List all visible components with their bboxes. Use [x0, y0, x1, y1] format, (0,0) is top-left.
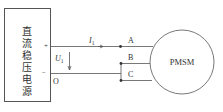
minus-terminal-label: −	[42, 69, 46, 77]
supply-char-4: 压	[22, 62, 32, 73]
current-label: I1	[88, 36, 95, 46]
plus-terminal-label: +	[44, 42, 48, 50]
pmsm-label: PMSM	[170, 57, 195, 67]
voltage-u1: U1	[55, 52, 71, 70]
voltage-label: U1	[55, 54, 64, 64]
supply-char-6: 源	[22, 85, 32, 97]
terminal-a-label: A	[128, 36, 134, 45]
terminal-b-label: B	[128, 53, 133, 62]
junction-dot-b	[120, 62, 123, 65]
supply-char-2: 流	[22, 37, 32, 49]
supply-char-1: 直	[22, 25, 32, 37]
circuit-diagram: 直 流 稳 压 电 源 + − I1 U1 O A B C PMSM	[0, 0, 223, 112]
supply-char-5: 电	[22, 73, 32, 85]
terminal-c-label: C	[128, 70, 133, 79]
current-arrow-icon	[98, 45, 103, 48]
dc-power-supply-label: 直 流 稳 压 电 源	[22, 25, 32, 97]
voltage-arrow-icon	[68, 52, 71, 70]
junction-dot-c	[120, 79, 123, 82]
node-o-label: O	[53, 77, 59, 86]
supply-char-3: 稳	[22, 49, 32, 61]
junction-dot-a	[119, 45, 122, 48]
